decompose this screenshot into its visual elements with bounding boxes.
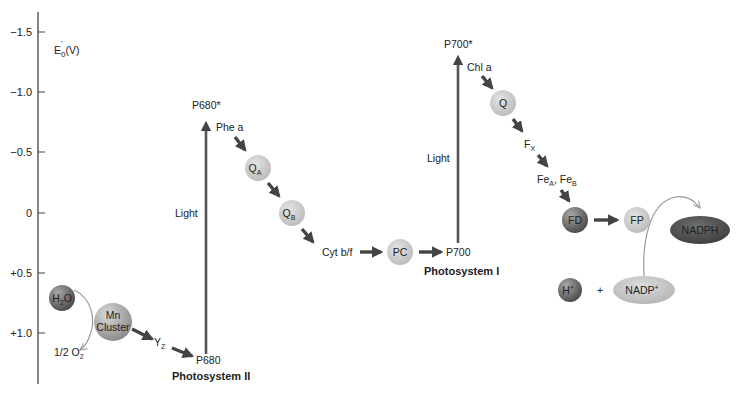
light-label: Light	[175, 207, 198, 219]
tick-label: −1.0	[10, 86, 32, 98]
p680-label: P680	[196, 354, 221, 366]
oxygen-label: 1/2 O2	[54, 346, 84, 360]
mn-cluster-label: Mn	[106, 309, 121, 321]
cytochrome-label: Cyt b/f	[322, 246, 352, 258]
arrow-icon	[302, 229, 313, 242]
tick-label: −0.5	[10, 146, 32, 158]
plastocyanin-label: PC	[393, 246, 408, 258]
arrow-icon	[561, 190, 569, 201]
yz-label: YZ	[154, 336, 166, 350]
tick-label: 0	[26, 207, 32, 219]
mn-cluster-label: Cluster	[96, 321, 130, 333]
y-axis: −1.5 −1.0 −0.5 0 +0.5 +1.0 E0(V) '	[10, 12, 79, 384]
psii-electron-chain: Phe a QA QB	[216, 121, 313, 242]
tick-label: −1.5	[10, 26, 32, 38]
psi-electron-chain: Chl a Q FX FeA, FeB FD FP	[467, 61, 650, 233]
tick-label: +1.0	[10, 327, 32, 339]
p700-excited-label: P700*	[444, 38, 473, 50]
p700-label: P700	[446, 246, 471, 258]
light-label: Light	[427, 152, 450, 164]
plus-sign: +	[597, 284, 603, 296]
arrow-icon	[235, 137, 245, 150]
arrow-icon	[482, 76, 492, 88]
arrow-icon	[268, 183, 279, 196]
svg-text:': '	[61, 39, 63, 48]
water-oxidation: H2O 1/2 O2 Mn Cluster YZ P680 Photosyste…	[49, 285, 250, 382]
photosystem-i-title: Photosystem I	[424, 265, 499, 277]
fp-label: FP	[630, 214, 643, 226]
chlorophyll-label: Chl a	[467, 61, 492, 73]
ferredoxin-label: FD	[568, 214, 582, 226]
axis-title: E0(V)	[54, 44, 79, 59]
arrow-icon	[538, 155, 547, 166]
fx-label: FX	[524, 138, 535, 152]
arrow-icon	[172, 348, 192, 356]
pheophytin-label: Phe a	[216, 121, 244, 133]
nadp-label: NADP+	[625, 284, 658, 296]
nadph-label: NADPH	[682, 224, 719, 236]
arrow-icon	[513, 119, 522, 131]
z-scheme-diagram: −1.5 −1.0 −0.5 0 +0.5 +1.0 E0(V) ' H2O 1…	[0, 0, 740, 394]
quinone-label: Q	[499, 97, 507, 109]
tick-label: +0.5	[10, 267, 32, 279]
psii-light-excitation: Light P680*	[175, 99, 221, 354]
arrow-icon	[132, 329, 152, 339]
photosystem-ii-title: Photosystem II	[172, 370, 250, 382]
p680-excited-label: P680*	[192, 99, 221, 111]
psi-light-excitation: Light P700*	[427, 38, 473, 243]
fe-a-fe-b-label: FeA, FeB	[537, 173, 577, 187]
intersystem-chain: Cyt b/f PC P700 Photosystem I	[322, 239, 499, 277]
